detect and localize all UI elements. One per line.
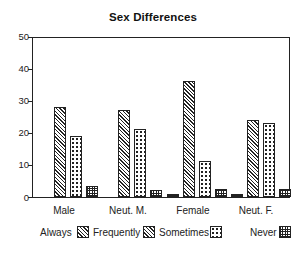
legend-label-never: Never bbox=[250, 226, 277, 239]
bar-never-neut-m bbox=[150, 190, 162, 197]
bar-sometimes-female bbox=[199, 161, 211, 197]
legend-swatch-never-icon bbox=[279, 226, 291, 238]
legend-label-frequently: Frequently bbox=[93, 226, 140, 239]
legend: Always Frequently Sometimes Never bbox=[0, 226, 306, 240]
y-tick-label: 40 bbox=[0, 64, 29, 74]
x-label-neut-f: Neut. F. bbox=[226, 205, 286, 216]
bar-sometimes-male bbox=[70, 136, 82, 197]
bar-never-female bbox=[215, 189, 227, 197]
bar-frequently-male bbox=[54, 107, 66, 197]
y-tick-label: 0 bbox=[0, 193, 29, 203]
x-label-neut-m: Neut. M. bbox=[98, 205, 158, 216]
y-tick-label: 20 bbox=[0, 128, 29, 138]
x-label-male: Male bbox=[34, 205, 94, 216]
bar-sometimes-neut-f bbox=[263, 123, 275, 197]
chart-title: Sex Differences bbox=[0, 11, 306, 23]
legend-swatch-always-icon bbox=[77, 226, 89, 238]
y-tick-label: 30 bbox=[0, 96, 29, 106]
legend-label-always: Always bbox=[40, 226, 72, 239]
legend-label-sometimes: Sometimes bbox=[159, 226, 209, 239]
bar-sometimes-neut-m bbox=[134, 129, 146, 197]
x-label-female: Female bbox=[163, 205, 223, 216]
bar-always-neut-f bbox=[231, 194, 243, 197]
bar-never-male bbox=[86, 186, 98, 197]
legend-swatch-sometimes-icon bbox=[210, 226, 222, 238]
plot-area bbox=[32, 37, 290, 198]
bar-always-female bbox=[167, 194, 179, 197]
y-tick-label: 50 bbox=[0, 32, 29, 42]
bar-never-neut-f bbox=[279, 189, 291, 197]
bar-frequently-female bbox=[183, 81, 195, 197]
bar-frequently-neut-f bbox=[247, 120, 259, 197]
legend-swatch-frequently-icon bbox=[143, 226, 155, 238]
y-tick-label: 10 bbox=[0, 160, 29, 170]
bar-frequently-neut-m bbox=[118, 110, 130, 197]
